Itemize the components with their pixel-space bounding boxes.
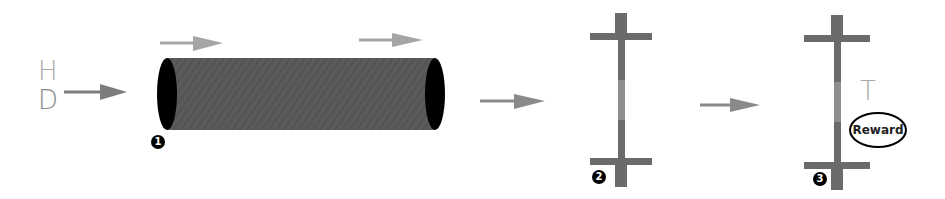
flow-arrow-top-right (359, 33, 423, 47)
stage-badge-1: 1 (151, 135, 165, 149)
stage-badge-3: 3 (813, 172, 827, 186)
arrow-to-stage-2 (480, 94, 545, 109)
input-arrow (64, 84, 127, 100)
diagram-canvas (0, 0, 945, 199)
cylinder-encoder (157, 58, 445, 130)
d-label: D (38, 87, 58, 113)
t-label: T (860, 78, 876, 104)
pole-stage-2 (590, 13, 652, 187)
h-label: H (38, 58, 58, 84)
flow-arrow-top-left (160, 36, 223, 51)
arrow-to-stage-3 (700, 98, 760, 112)
stage-badge-2: 2 (592, 170, 606, 184)
reward-oval: Reward (849, 112, 907, 148)
